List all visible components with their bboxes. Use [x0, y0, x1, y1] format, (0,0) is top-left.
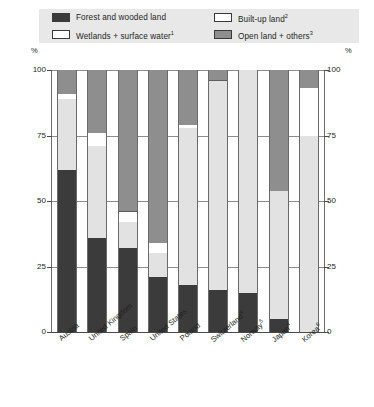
segment-forest — [119, 247, 137, 332]
y-tick-r-25 — [324, 267, 329, 268]
segment-open — [58, 70, 76, 94]
y-axis-tick-label-r-0: 0 — [327, 327, 351, 336]
bar-korea[interactable] — [299, 70, 319, 332]
legend-item-forest: Forest and wooded land — [52, 9, 174, 26]
legend-column-left: Forest and wooded land Wetlands + surfac… — [52, 9, 174, 43]
legend-label-wetlands-text: Wetlands + surface water — [76, 31, 171, 40]
legend-item-wetlands: Wetlands + surface water1 — [52, 26, 174, 43]
segment-built — [149, 252, 167, 277]
y-axis-tick-label-r-50: 50 — [327, 196, 351, 205]
segment-built — [300, 135, 318, 333]
segment-open — [88, 70, 106, 133]
legend-label-open-text: Open land + others — [238, 31, 310, 40]
segment-built — [88, 145, 106, 238]
legend-label-forest: Forest and wooded land — [76, 13, 166, 22]
segment-forest — [88, 237, 106, 332]
segment-open — [209, 70, 227, 80]
y-tick-r-0 — [324, 332, 329, 333]
y-axis-tick-label-r-75: 75 — [327, 131, 351, 140]
y-axis-unit-right: % — [345, 46, 352, 55]
plot-area — [51, 70, 325, 332]
segment-built — [58, 98, 76, 170]
y-tick-r-100 — [324, 70, 329, 71]
bar-spain[interactable] — [118, 70, 138, 332]
segment-open — [300, 70, 318, 88]
legend-swatch-open — [214, 30, 232, 39]
legend-item-open: Open land + others3 — [214, 26, 313, 43]
chart-legend: Forest and wooded land Wetlands + surfac… — [39, 9, 359, 43]
y-axis-unit-left: % — [31, 46, 38, 55]
segment-forest — [58, 169, 76, 332]
bar-switzerland[interactable] — [208, 70, 228, 332]
y-axis-tick-label-r-100: 100 — [327, 65, 351, 74]
segment-wet — [300, 87, 318, 135]
y-axis-tick-label-l-50: 50 — [22, 196, 46, 205]
legend-label-builtup-text: Built-up land — [238, 14, 285, 23]
segment-built — [239, 70, 257, 293]
legend-swatch-forest — [52, 13, 70, 22]
segment-open — [149, 70, 167, 243]
y-tick-r-75 — [324, 136, 329, 137]
legend-footnote-builtup: 2 — [285, 13, 288, 19]
segment-open — [179, 70, 197, 125]
segment-wet — [149, 242, 167, 253]
segment-built — [270, 190, 288, 319]
y-axis-tick-label-l-25: 25 — [22, 262, 46, 271]
legend-swatch-wetlands — [52, 30, 70, 39]
bar-norway[interactable] — [238, 70, 258, 332]
bar-group — [52, 70, 324, 332]
chart-root: Forest and wooded land Wetlands + surfac… — [0, 0, 374, 407]
segment-wet — [88, 132, 106, 146]
segment-open — [119, 70, 137, 211]
segment-built — [209, 80, 227, 291]
legend-label-builtup: Built-up land2 — [238, 12, 288, 24]
bar-united-kingdom[interactable] — [87, 70, 107, 332]
segment-built — [179, 127, 197, 285]
segment-built — [119, 221, 137, 248]
segment-wet — [119, 211, 137, 222]
bar-united-states[interactable] — [148, 70, 168, 332]
y-tick-l-0 — [47, 332, 52, 333]
legend-footnote-wetlands: 1 — [171, 30, 174, 36]
bar-japan[interactable] — [269, 70, 289, 332]
legend-footnote-open: 3 — [310, 30, 313, 36]
y-axis-tick-label-l-75: 75 — [22, 131, 46, 140]
x-axis-labels: AustriaUnited KingdomSpainUnited StatesP… — [0, 336, 374, 406]
legend-label-open: Open land + others3 — [238, 29, 313, 41]
legend-item-builtup: Built-up land2 — [214, 9, 313, 26]
segment-open — [270, 70, 288, 191]
y-axis-tick-label-l-0: 0 — [22, 327, 46, 336]
bar-poland[interactable] — [178, 70, 198, 332]
bar-austria[interactable] — [57, 70, 77, 332]
y-tick-r-50 — [324, 201, 329, 202]
legend-label-wetlands: Wetlands + surface water1 — [76, 29, 174, 41]
legend-column-right: Built-up land2 Open land + others3 — [214, 9, 313, 43]
y-axis-tick-label-l-100: 100 — [22, 65, 46, 74]
y-axis-tick-label-r-25: 25 — [327, 262, 351, 271]
legend-swatch-builtup — [214, 13, 232, 22]
